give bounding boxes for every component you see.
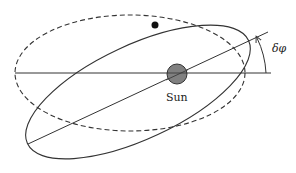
precessed-orbit-solid [8,0,269,173]
planet-dot-icon [152,22,159,29]
sun-icon [167,64,187,84]
orbit-diagram: Sun δφ [0,0,296,173]
angle-label: δφ [272,42,287,55]
angle-arc-arrow [257,38,266,73]
rotated-axis-line [28,32,268,144]
sun-label: Sun [166,91,188,104]
